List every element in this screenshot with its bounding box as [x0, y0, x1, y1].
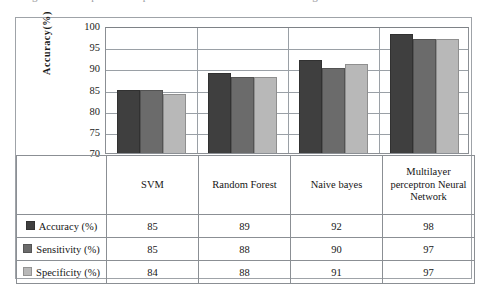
bar-group	[197, 28, 288, 153]
bar-group	[106, 28, 197, 153]
table-category-row: SVMRandom ForestNaive bayesMultilayer pe…	[17, 156, 475, 215]
table-cell: 88	[199, 238, 291, 261]
table-cell: 85	[107, 215, 199, 238]
bar[interactable]	[436, 39, 459, 153]
y-axis-tick-label: 95	[90, 43, 101, 53]
y-axis-tick-label: 75	[90, 128, 101, 138]
legend-entry-label: Specificity (%)	[36, 267, 100, 278]
table-column-header-label: SVM	[107, 179, 198, 192]
legend-entry-label: Accuracy (%)	[39, 221, 98, 232]
y-axis-title: Accuracy(%)	[41, 0, 55, 93]
table-cell: 91	[291, 261, 383, 284]
figure-frame: Accuracy(%) 100959085807570 SVMRandom Fo…	[15, 17, 472, 279]
legend-swatch-icon	[23, 267, 32, 276]
table-column-header: SVM	[107, 156, 199, 215]
category-separator	[197, 28, 198, 153]
legend-entry[interactable]: Accuracy (%)	[17, 215, 107, 238]
legend-entry[interactable]: Sensitivity (%)	[17, 238, 107, 261]
table-cell: 85	[107, 238, 199, 261]
table-cell: 98	[383, 215, 475, 238]
table-cell: 84	[107, 261, 199, 284]
table-cell: 97	[383, 261, 475, 284]
bar[interactable]	[208, 73, 231, 153]
category-separator	[379, 28, 380, 153]
table-column-header: Random Forest	[199, 156, 291, 215]
bar[interactable]	[413, 39, 436, 153]
bar[interactable]	[140, 90, 163, 154]
table-column-header: Multilayer perceptron Neural Network	[383, 156, 475, 215]
y-axis-tick-label: 85	[90, 86, 101, 96]
y-axis-tick-label: 90	[90, 64, 101, 74]
chart-plot-region: Accuracy(%) 100959085807570	[16, 18, 471, 156]
table-row: Specificity (%)84889197	[17, 261, 475, 284]
legend-swatch-icon	[26, 221, 35, 230]
figure-caption-sliver: Figure 4: Comparison of performance of t…	[0, 0, 491, 9]
table-column-header-label: Random Forest	[199, 179, 290, 192]
table-column-header-label: Naive bayes	[291, 179, 382, 192]
bar-group	[379, 28, 469, 153]
legend-swatch-icon	[23, 244, 32, 253]
bar[interactable]	[299, 60, 322, 153]
category-separator	[288, 28, 289, 153]
table-cell: 89	[199, 215, 291, 238]
bar[interactable]	[345, 64, 368, 153]
bar[interactable]	[163, 94, 186, 153]
bar[interactable]	[390, 34, 413, 153]
table-row: Sensitivity (%)85889097	[17, 238, 475, 261]
figure-caption-text: Figure 4: Comparison of performance of t…	[22, 0, 355, 2]
table-row: Accuracy (%)85899298	[17, 215, 475, 238]
y-axis-tick-label: 80	[90, 107, 101, 117]
table-column-header-label: Multilayer perceptron Neural Network	[383, 166, 474, 204]
chart-data-table: SVMRandom ForestNaive bayesMultilayer pe…	[16, 155, 475, 284]
legend-entry[interactable]: Specificity (%)	[17, 261, 107, 284]
table-corner-cell	[17, 156, 107, 215]
table-cell: 97	[383, 238, 475, 261]
y-axis-tick-label: 100	[84, 22, 100, 32]
bar[interactable]	[117, 90, 140, 154]
table-column-header: Naive bayes	[291, 156, 383, 215]
bar-group	[288, 28, 379, 153]
y-axis-tick-labels: 100959085807570	[56, 18, 104, 156]
legend-entry-label: Sensitivity (%)	[36, 244, 99, 255]
bar[interactable]	[322, 68, 345, 153]
bar[interactable]	[231, 77, 254, 153]
bar[interactable]	[254, 77, 277, 153]
table-cell: 92	[291, 215, 383, 238]
chart-plot-area	[105, 27, 469, 154]
table-cell: 88	[199, 261, 291, 284]
table-cell: 90	[291, 238, 383, 261]
